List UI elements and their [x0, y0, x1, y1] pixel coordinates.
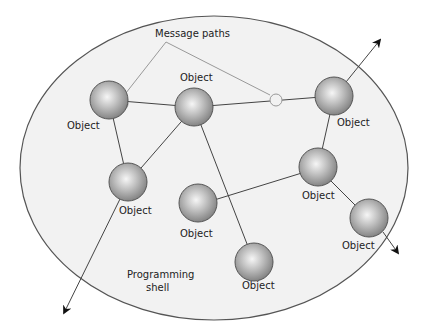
- object-label: Object: [302, 190, 335, 201]
- object-label: Object: [180, 228, 213, 239]
- object-sphere: [179, 184, 217, 222]
- object-label: Object: [342, 240, 375, 251]
- shell-label-line1: Programming: [127, 269, 194, 280]
- incoming-arrow-right: [383, 232, 398, 253]
- programming-shell-diagram: Object Object Object Object Object Objec…: [0, 0, 428, 332]
- object-label: Object: [119, 205, 152, 216]
- object-f: Object: [179, 184, 217, 239]
- shell-label-line2: shell: [146, 282, 169, 293]
- object-label: Object: [242, 280, 275, 291]
- object-b: Object: [175, 72, 213, 126]
- object-label: Object: [180, 72, 213, 83]
- message-path-marker: [270, 94, 282, 106]
- object-sphere: [299, 148, 337, 186]
- object-sphere: [109, 163, 147, 201]
- message-paths-label: Message paths: [155, 28, 230, 39]
- object-sphere: [315, 77, 353, 115]
- object-label: Object: [67, 120, 100, 131]
- programming-shell: [20, 16, 408, 320]
- object-label: Object: [337, 117, 370, 128]
- object-sphere: [235, 243, 273, 281]
- object-sphere: [175, 88, 213, 126]
- object-sphere: [350, 199, 388, 237]
- object-e: Object: [299, 148, 337, 201]
- object-sphere: [90, 81, 128, 119]
